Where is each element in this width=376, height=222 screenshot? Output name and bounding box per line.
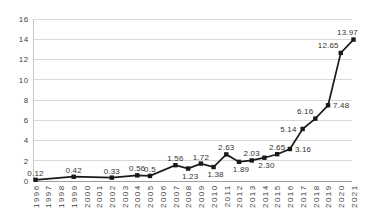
data-label: 0.33 xyxy=(104,167,121,176)
x-tick-label: 1996 xyxy=(32,185,41,208)
y-tick-label: 8 xyxy=(24,96,29,105)
data-label: 0.42 xyxy=(65,166,82,175)
data-point xyxy=(275,152,279,156)
data-label: 12.65 xyxy=(318,41,339,50)
data-point xyxy=(211,165,215,169)
x-tick-label: 2013 xyxy=(248,185,257,208)
data-point xyxy=(237,160,241,164)
y-tick-label: 10 xyxy=(19,76,29,85)
data-point xyxy=(300,127,304,131)
data-label: 2.63 xyxy=(218,143,235,152)
x-tick-label: 2001 xyxy=(95,185,104,208)
data-point xyxy=(33,178,37,182)
x-tick-label: 1997 xyxy=(44,185,53,208)
y-tick-label: 16 xyxy=(19,15,29,24)
y-tick-label: 12 xyxy=(19,55,29,64)
data-point xyxy=(110,175,114,179)
data-label: 1.72 xyxy=(193,153,210,162)
x-tick-label: 2003 xyxy=(121,185,130,208)
x-tick-label: 2018 xyxy=(312,185,321,208)
data-point xyxy=(262,156,266,160)
x-tick-label: 2000 xyxy=(83,185,92,208)
data-point xyxy=(250,158,254,162)
x-tick-labels: 1996199719981999200020012002200320042005… xyxy=(32,185,359,208)
x-tick-label: 2015 xyxy=(273,185,282,208)
x-tick-label: 2007 xyxy=(172,185,181,208)
data-label: 2.30 xyxy=(258,161,275,170)
data-label: 1.56 xyxy=(167,154,184,163)
data-point xyxy=(199,161,203,165)
x-tick-label: 2006 xyxy=(159,185,168,208)
x-tick-label: 2017 xyxy=(299,185,308,208)
x-tick-label: 2014 xyxy=(261,185,270,208)
data-point xyxy=(313,116,317,120)
data-label: 5.14 xyxy=(280,125,297,134)
data-label: 3.16 xyxy=(295,145,312,154)
chart-svg: 0246810121416199619971998199920002001200… xyxy=(0,0,376,222)
y-tick-label: 0 xyxy=(24,177,29,186)
data-label: 0.12 xyxy=(27,169,44,178)
x-tick-label: 2004 xyxy=(133,185,142,208)
x-tick-label: 2019 xyxy=(324,185,333,208)
data-point xyxy=(326,103,330,107)
data-label: 0.5 xyxy=(144,165,156,174)
data-label: 7.48 xyxy=(333,101,350,110)
x-tick-label: 2011 xyxy=(223,185,232,208)
data-point xyxy=(339,51,343,55)
data-label: 13.97 xyxy=(337,28,358,37)
x-tick-label: 2020 xyxy=(337,185,346,208)
x-tick-label: 2002 xyxy=(108,185,117,208)
data-labels: 0.120.420.330.560.51.561.231.721.382.631… xyxy=(27,28,358,181)
data-label: 1.23 xyxy=(182,172,199,181)
data-point xyxy=(351,37,355,41)
data-point xyxy=(71,175,75,179)
data-point xyxy=(135,173,139,177)
x-tick-label: 2009 xyxy=(197,185,206,208)
data-label: 1.38 xyxy=(207,170,224,179)
y-tick-label: 2 xyxy=(24,157,29,166)
y-tick-label: 6 xyxy=(24,116,29,125)
x-tick-label: 1999 xyxy=(70,185,79,208)
x-tick-label: 2010 xyxy=(210,185,219,208)
data-point xyxy=(288,147,292,151)
line-chart-figure: 0246810121416199619971998199920002001200… xyxy=(0,0,376,222)
y-tick-labels: 0246810121416 xyxy=(19,15,29,186)
data-label: 6.16 xyxy=(297,107,314,116)
x-tick-label: 1998 xyxy=(57,185,66,208)
x-tick-label: 2012 xyxy=(235,185,244,208)
data-point xyxy=(186,166,190,170)
data-point xyxy=(148,174,152,178)
x-tick-label: 2016 xyxy=(286,185,295,208)
y-tick-label: 14 xyxy=(19,35,29,44)
x-tick-label: 2008 xyxy=(184,185,193,208)
data-point xyxy=(224,152,228,156)
data-label: 2.03 xyxy=(244,149,261,158)
data-label: 1.89 xyxy=(233,165,250,174)
gridlines xyxy=(34,19,353,161)
x-tick-label: 2005 xyxy=(146,185,155,208)
x-tick-label: 2021 xyxy=(350,185,359,208)
data-label: 2.65 xyxy=(269,143,286,152)
y-tick-label: 4 xyxy=(24,136,29,145)
data-point xyxy=(173,163,177,167)
